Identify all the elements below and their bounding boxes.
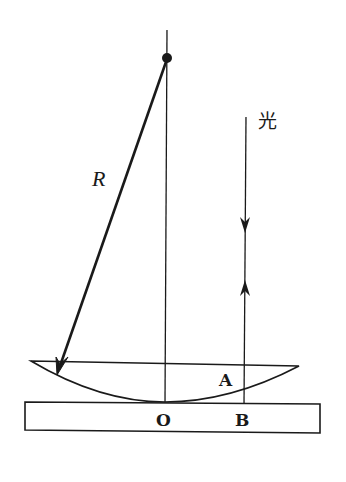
glass-plate	[25, 402, 320, 433]
radius-line	[60, 59, 167, 366]
point-b-label: B	[235, 410, 249, 430]
optical-axis	[165, 30, 167, 402]
light-ray	[244, 117, 246, 404]
point-o-label: O	[156, 410, 171, 430]
light-label: 光	[258, 110, 277, 132]
center-of-curvature-dot	[162, 53, 172, 63]
newtons-rings-diagram: R 光 A O B	[0, 0, 346, 482]
point-a-label: A	[218, 370, 233, 390]
radius-label: R	[91, 166, 106, 191]
